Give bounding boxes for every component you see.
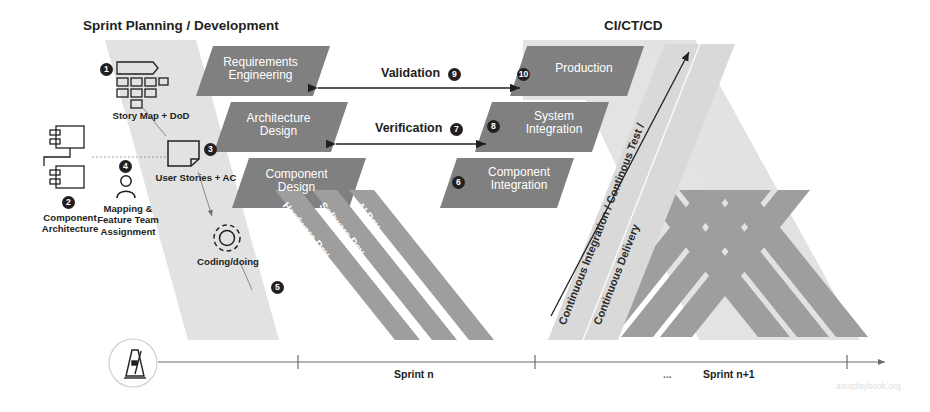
marker-3: 3 <box>204 143 217 156</box>
label-sprint-n1: Sprint n+1 <box>703 368 755 380</box>
marker-5: 5 <box>271 281 284 294</box>
stage-requirements-engineering: Requirements Engineering <box>198 56 323 83</box>
timeline-axis <box>158 355 885 369</box>
person-icon <box>117 176 135 198</box>
stage-system-integration: System Integration <box>498 110 610 137</box>
label-sprint-n: Sprint n <box>394 368 434 380</box>
marker-1: 1 <box>100 63 113 76</box>
metronome-icon <box>109 339 157 387</box>
label-mapping-feature-team: Mapping & Feature Team Assignment <box>88 203 168 237</box>
marker-10: 10 <box>517 68 530 81</box>
header-sprint-planning: Sprint Planning / Development <box>83 18 279 33</box>
label-story-map: Story Map + DoD <box>108 110 194 121</box>
marker-7: 7 <box>450 123 463 136</box>
stage-component-integration: Component Integration <box>463 166 575 193</box>
stage-architecture-design: Architecture Design <box>216 112 341 139</box>
marker-8: 8 <box>487 120 500 133</box>
marker-6: 6 <box>452 176 465 189</box>
marker-4: 4 <box>119 160 132 173</box>
stage-production: Production <box>528 62 640 75</box>
label-validation: Validation <box>381 66 440 80</box>
marker-2: 2 <box>62 196 75 209</box>
header-cicd: CI/CT/CD <box>604 18 663 33</box>
stage-component-design: Component Design <box>234 168 359 195</box>
diagram-canvas: Sprint Planning / Development CI/CT/CD R… <box>0 0 930 412</box>
watermark: asotplaybook.org <box>836 381 901 391</box>
label-ellipsis: ... <box>663 368 672 380</box>
marker-9: 9 <box>448 68 461 81</box>
label-verification: Verification <box>375 121 442 135</box>
component-architecture-icon <box>44 126 84 188</box>
label-coding-doing: Coding/doing <box>186 256 270 267</box>
label-user-stories: User Stories + AC <box>148 172 244 183</box>
